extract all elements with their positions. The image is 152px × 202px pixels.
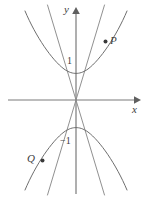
figure-canvas xyxy=(0,0,152,202)
x-axis-label: x xyxy=(132,104,137,115)
tick-label-positive-one: 1 xyxy=(67,56,72,66)
hyperbola-figure: y x 1 −1 P Q xyxy=(0,0,152,202)
point-P-dot xyxy=(104,40,108,44)
y-axis-label: y xyxy=(64,4,69,15)
tick-label-negative-one: −1 xyxy=(60,136,71,146)
point-Q-dot xyxy=(41,159,45,163)
y-axis-arrow-icon xyxy=(72,7,80,14)
point-P-label: P xyxy=(110,35,117,46)
point-Q-label: Q xyxy=(27,153,35,164)
